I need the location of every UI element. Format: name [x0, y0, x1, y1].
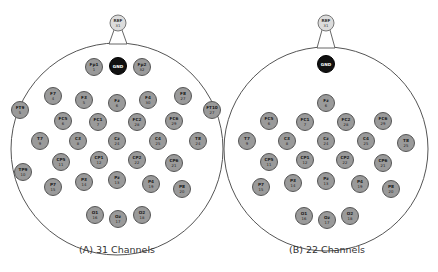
electrode-number: 10: [21, 172, 26, 177]
electrode-number: 30: [146, 100, 151, 105]
electrode-fp1: Fp11: [86, 59, 103, 76]
electrode-number: 11: [59, 162, 64, 167]
electrode-c4: C425: [358, 133, 375, 150]
electrode-number: 25: [156, 141, 161, 146]
electrode-number: 16: [93, 215, 98, 220]
electrode-number: 22: [135, 160, 140, 165]
electrode-number: 11: [267, 162, 272, 167]
electrode-number: 15: [259, 187, 264, 192]
electrode-number: 16: [302, 216, 307, 221]
electrode-number: 29: [381, 121, 386, 126]
electrode-number: 25: [404, 143, 409, 148]
electrode-fc6: FC629: [166, 113, 183, 130]
electrode-cp5: CP511: [53, 154, 70, 171]
ref-electrode: REF31: [318, 15, 334, 31]
electrode-number: 27: [210, 110, 215, 115]
electrode-t7: T79: [239, 133, 256, 150]
electrode-cp1: CP112: [297, 152, 314, 169]
electrode-number: 17: [116, 219, 121, 224]
electrode-p7: P715: [253, 179, 270, 196]
electrode-fc1: FC17: [90, 114, 107, 131]
electrode-cz: Cz24: [318, 133, 335, 150]
electrode-number: 20: [389, 189, 394, 194]
electrode-ft10: FT1027: [204, 102, 221, 119]
electrode-p3: P314: [285, 175, 302, 192]
electrode-fc5: FC56: [261, 113, 278, 130]
electrode-number: 14: [291, 183, 296, 188]
electrode-number: 24: [115, 141, 120, 146]
electrode-pz: Pz13: [318, 173, 335, 190]
electrode-label: GND: [321, 62, 332, 67]
electrode-cp1: CP112: [91, 152, 108, 169]
electrode-number: 31: [324, 23, 329, 28]
electrode-fz: Fz6: [109, 95, 126, 112]
gnd-electrode: GND: [318, 56, 335, 73]
electrode-number: 18: [348, 216, 353, 221]
electrode-fc1: FC17: [297, 114, 314, 131]
electrode-fc5: FC56: [55, 113, 72, 130]
ref-connector: [109, 30, 127, 44]
electrode-t7: T79: [32, 133, 49, 150]
electrode-number: 27: [181, 96, 186, 101]
electrode-tp9: TP910: [15, 164, 32, 181]
electrode-cz: Cz24: [109, 133, 126, 150]
electrode-c3: C38: [70, 133, 87, 150]
caption-22-channels: (B) 22 Channels: [289, 244, 365, 255]
electrode-f3: F35: [76, 92, 93, 109]
electrode-number: 32: [140, 67, 145, 72]
electrode-number: 24: [324, 141, 329, 146]
electrode-number: 14: [82, 182, 87, 187]
electrode-cp5: CP511: [261, 154, 278, 171]
head-panel-a: REF31GNDFp11Fp232F74F35Fz6F430F827FT95FT…: [11, 15, 223, 255]
electrode-number: 13: [115, 180, 120, 185]
electrode-f8: F827: [175, 88, 192, 105]
electrode-number: 25: [364, 141, 369, 146]
electrode-p8: P820: [174, 181, 191, 198]
electrode-cp6: CP621: [166, 155, 183, 172]
electrode-c3: C38: [279, 133, 296, 150]
electrode-cp2: CP222: [129, 152, 146, 169]
electrode-number: 21: [381, 163, 386, 168]
electrode-number: 12: [303, 160, 308, 165]
electrode-pz: Pz13: [109, 172, 126, 189]
electrode-fp2: Fp232: [134, 59, 151, 76]
gnd-electrode: GND: [110, 58, 127, 75]
electrode-c4: C425: [150, 133, 167, 150]
electrode-p4: P419: [143, 176, 160, 193]
electrode-number: 20: [180, 189, 185, 194]
electrode-p8: P820: [383, 181, 400, 198]
electrode-fc2: FC228: [129, 114, 146, 131]
electrode-number: 31: [116, 23, 121, 28]
electrode-label: GND: [113, 64, 124, 69]
electrode-oz: Oz17: [319, 212, 336, 229]
ref-connector: [317, 30, 335, 48]
electrode-o1: O116: [296, 208, 313, 225]
electrode-cp6: CP621: [375, 155, 392, 172]
ref-electrode: REF31: [110, 15, 126, 31]
electrode-fz: Fz6: [318, 95, 335, 112]
electrode-number: 15: [51, 187, 56, 192]
electrode-f7: F74: [45, 88, 62, 105]
electrode-number: 29: [172, 121, 177, 126]
electrode-p7: P715: [45, 179, 62, 196]
electrode-p4: P419: [352, 176, 369, 193]
electrode-number: 19: [358, 184, 363, 189]
electrode-number: 21: [172, 163, 177, 168]
electrode-o1: O116: [87, 207, 104, 224]
electrode-fc2: FC228: [338, 114, 355, 131]
electrode-number: 22: [343, 160, 348, 165]
electrode-number: 17: [325, 220, 330, 225]
electrode-t8: T825: [398, 135, 415, 152]
electrode-cp2: CP222: [337, 152, 354, 169]
electrode-oz: Oz17: [110, 211, 127, 228]
electrode-o2: O218: [134, 207, 151, 224]
head-panel-b: REF31GNDFz6FC56FC17FC228FC629T79C38Cz24C…: [224, 15, 428, 251]
electrode-number: 12: [97, 160, 102, 165]
electrode-number: 19: [149, 184, 154, 189]
eeg-montage-diagram: REF31GNDFp11Fp232F74F35Fz6F430F827FT95FT…: [0, 0, 438, 272]
electrode-number: 13: [324, 181, 329, 186]
electrode-f4: F430: [140, 92, 157, 109]
electrode-number: 18: [140, 215, 145, 220]
electrode-ft9: FT95: [12, 102, 29, 119]
electrode-o2: O218: [342, 208, 359, 225]
